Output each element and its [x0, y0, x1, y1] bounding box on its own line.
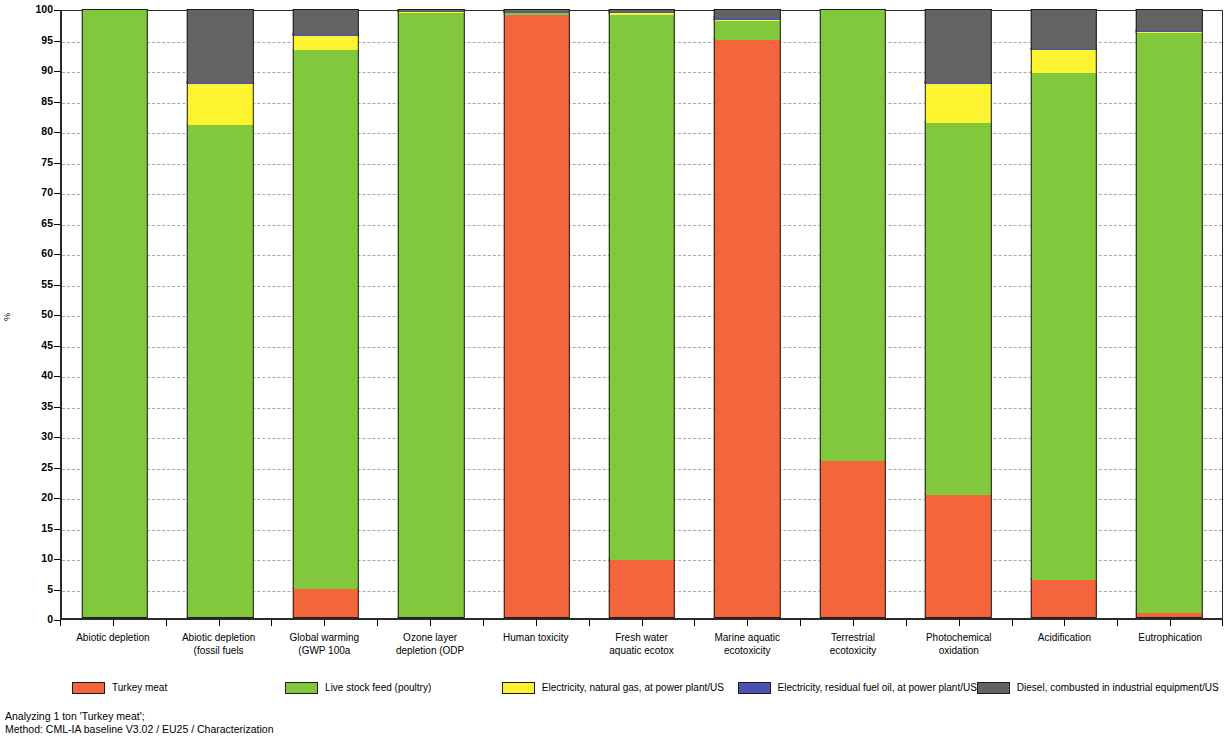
bar-segment[interactable] — [1136, 32, 1202, 613]
x-axis-label: Ozone layerdepletion (ODP — [377, 631, 483, 657]
y-tick-label: 50 — [19, 309, 53, 320]
bar-segment[interactable] — [292, 587, 358, 618]
y-tick-label: 65 — [19, 218, 53, 229]
legend-item[interactable]: Turkey meat — [60, 682, 282, 694]
x-axis-tick-labels: Abiotic depletionAbiotic depletion(fossi… — [60, 631, 1223, 657]
x-axis-label: Human toxicity — [483, 631, 589, 657]
x-tick-mark — [1117, 620, 1118, 626]
bar-segment[interactable] — [398, 11, 464, 617]
plot-area — [60, 10, 1223, 620]
y-tick-label: 100 — [19, 4, 53, 15]
x-axis-label: Eutrophication — [1117, 631, 1223, 657]
bar-segment[interactable] — [1031, 9, 1097, 49]
bar-segment[interactable] — [1136, 9, 1202, 31]
x-tick-mark — [800, 620, 801, 626]
x-tick-mark — [906, 620, 907, 626]
y-tick-label: 0 — [19, 614, 53, 625]
bar-slot — [1117, 11, 1222, 618]
y-tick-mark — [54, 315, 60, 316]
bar-segment[interactable] — [714, 9, 780, 17]
bar-segment[interactable] — [820, 460, 886, 618]
bar-segment[interactable] — [398, 9, 464, 11]
x-axis-label-line: (GWP 100a — [273, 644, 375, 657]
y-tick-mark — [54, 193, 60, 194]
bar-segment[interactable] — [187, 123, 253, 618]
y-tick-label: 75 — [19, 157, 53, 168]
bar-stack[interactable] — [503, 11, 569, 618]
bar-segment[interactable] — [292, 9, 358, 34]
y-tick-label: 55 — [19, 279, 53, 290]
x-tick-cell — [800, 620, 906, 627]
x-axis-label: Fresh wateraquatic ecotox — [589, 631, 695, 657]
bar-stack[interactable] — [1136, 11, 1202, 618]
bar-segment[interactable] — [609, 9, 675, 12]
bar-stack[interactable] — [398, 11, 464, 618]
bar-segment[interactable] — [292, 34, 358, 50]
y-tick-label: 10 — [19, 553, 53, 564]
y-tick-mark — [54, 224, 60, 225]
bar-segment[interactable] — [1031, 71, 1097, 579]
bar-segment[interactable] — [1031, 49, 1097, 73]
stacked-bar-chart: % 10095908580757065605550454035302520151… — [0, 0, 1231, 742]
legend-item[interactable]: Diesel, combusted in industrial equipmen… — [977, 682, 1225, 694]
bar-segment[interactable] — [714, 20, 780, 40]
bar-segment[interactable] — [714, 38, 780, 618]
bar-segment[interactable] — [82, 9, 148, 618]
bar-stack[interactable] — [609, 11, 675, 618]
x-axis-label: Acidification — [1012, 631, 1118, 657]
x-axis-label-line: Abiotic depletion — [168, 631, 270, 644]
bar-segment[interactable] — [1031, 578, 1097, 618]
bar-stack[interactable] — [292, 11, 358, 618]
bar-segment[interactable] — [503, 9, 569, 12]
legend-item[interactable]: Live stock feed (poultry) — [282, 682, 502, 694]
y-tick-label: 40 — [19, 370, 53, 381]
x-axis-label-line: Fresh water — [591, 631, 693, 644]
x-tick-mark — [1170, 620, 1171, 626]
bar-segment[interactable] — [503, 14, 569, 618]
bar-slot — [695, 11, 800, 618]
bar-stack[interactable] — [925, 11, 991, 618]
x-axis-label-line: Ozone layer — [379, 631, 481, 644]
bar-segment[interactable] — [925, 9, 991, 82]
x-tick-mark — [377, 620, 378, 626]
x-tick-mark — [747, 620, 748, 626]
x-tick-mark — [853, 620, 854, 626]
bar-stack[interactable] — [820, 11, 886, 618]
x-tick-cell — [589, 620, 695, 627]
x-axis-label-line: depletion (ODP — [379, 644, 481, 657]
y-tick-label: 45 — [19, 340, 53, 351]
y-tick-label: 25 — [19, 462, 53, 473]
y-tick-mark — [54, 529, 60, 530]
x-axis-label-line: Acidification — [1014, 631, 1116, 644]
bar-segment[interactable] — [187, 82, 253, 124]
bar-slot — [1011, 11, 1116, 618]
bar-stack[interactable] — [1031, 11, 1097, 618]
x-axis-label-line: ecotoxicity — [696, 644, 798, 657]
x-axis-label: Photochemicaloxidation — [906, 631, 1012, 657]
bar-segment[interactable] — [820, 9, 886, 461]
x-tick-mark — [483, 620, 484, 626]
x-tick-cell — [483, 620, 589, 627]
bar-segment[interactable] — [609, 13, 675, 560]
y-tick-mark — [54, 468, 60, 469]
y-tick-label: 35 — [19, 401, 53, 412]
x-tick-cell — [60, 620, 166, 627]
bar-segment[interactable] — [925, 493, 991, 618]
x-axis-label: Global warming(GWP 100a — [271, 631, 377, 657]
legend-item[interactable]: Electricity, residual fuel oil, at power… — [738, 682, 977, 694]
bar-stack[interactable] — [187, 11, 253, 618]
legend-label: Live stock feed (poultry) — [325, 682, 431, 694]
bar-stack[interactable] — [82, 11, 148, 618]
x-axis-label-line: ecotoxicity — [802, 644, 904, 657]
bar-segment[interactable] — [187, 9, 253, 82]
bar-segment[interactable] — [925, 82, 991, 122]
bar-segment[interactable] — [292, 49, 358, 589]
bar-stack[interactable] — [714, 11, 780, 618]
bars-layer — [62, 11, 1222, 618]
y-tick-label: 15 — [19, 523, 53, 534]
bar-segment[interactable] — [925, 121, 991, 495]
legend-item[interactable]: Electricity, natural gas, at power plant… — [502, 682, 738, 694]
bar-slot — [800, 11, 905, 618]
x-tick-mark — [536, 620, 537, 626]
bar-segment[interactable] — [609, 559, 675, 618]
